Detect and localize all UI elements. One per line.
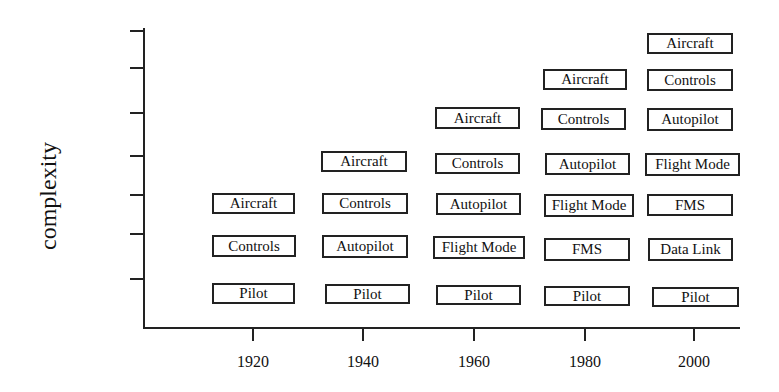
x-axis-line [143,327,740,329]
y-axis-label: complexity [35,142,62,250]
box-2000-autopilot: Autopilot [647,108,733,131]
x-tick-label: 1980 [555,353,615,371]
box-1940-pilot: Pilot [325,284,410,304]
y-axis-line [143,28,145,329]
box-1960-flight-mode: Flight Mode [433,236,525,259]
box-1980-pilot: Pilot [544,286,630,306]
box-1960-controls: Controls [435,153,520,174]
box-1920-controls: Controls [212,235,296,257]
x-tick [584,328,586,341]
box-2000-fms: FMS [647,194,733,216]
box-1980-autopilot: Autopilot [545,153,630,175]
x-tick-label: 2000 [664,353,724,371]
x-tick-label: 1940 [333,353,393,371]
box-1920-pilot: Pilot [212,283,295,304]
box-1960-autopilot: Autopilot [436,193,521,215]
x-tick-label: 1920 [223,353,283,371]
box-2000-pilot: Pilot [652,287,739,307]
box-1920-aircraft: Aircraft [212,193,295,214]
y-tick [130,155,144,157]
x-tick [693,328,695,341]
x-tick [362,328,364,341]
y-tick [130,278,144,280]
box-1980-fms: FMS [544,238,630,261]
y-tick [130,67,144,69]
box-1960-aircraft: Aircraft [435,107,520,129]
box-1940-autopilot: Autopilot [322,235,408,258]
box-2000-flight-mode: Flight Mode [645,153,740,176]
x-tick [252,328,254,341]
x-tick-label: 1960 [444,353,504,371]
x-tick [473,328,475,341]
box-1940-aircraft: Aircraft [321,151,407,172]
box-1940-controls: Controls [322,193,408,214]
box-1960-pilot: Pilot [436,285,521,305]
box-2000-controls: Controls [647,69,733,91]
y-tick [130,194,144,196]
y-tick [130,233,144,235]
y-tick [130,30,144,32]
box-1980-aircraft: Aircraft [543,69,627,90]
box-1980-flight-mode: Flight Mode [544,194,634,217]
box-1980-controls: Controls [541,108,626,130]
box-2000-aircraft: Aircraft [647,33,733,54]
box-2000-data-link: Data Link [648,238,733,261]
y-tick [130,112,144,114]
